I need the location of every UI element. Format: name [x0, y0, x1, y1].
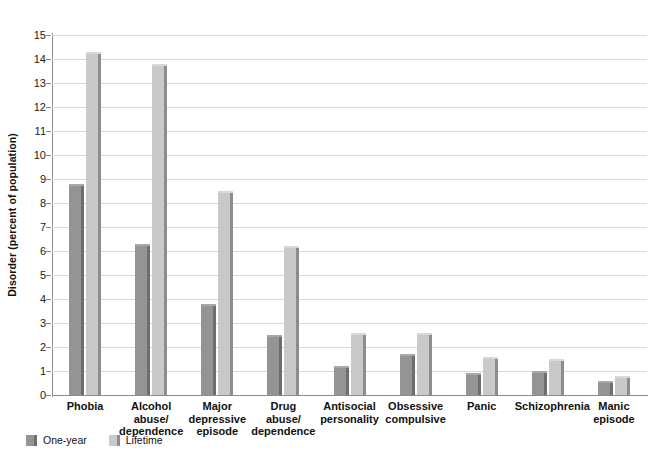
bar-one-year	[135, 244, 150, 395]
bar-side-shadow	[346, 366, 349, 395]
bar-top-cap	[417, 333, 432, 335]
y-axis-tick-label: 10	[24, 150, 46, 161]
bar-lifetime	[615, 376, 630, 395]
x-axis-label: Drugabuse/dependence	[250, 400, 316, 438]
bar-lifetime	[284, 246, 299, 395]
y-axis-tick-mark	[46, 131, 51, 132]
x-axis-label-line: episode	[581, 413, 647, 426]
bar-top-cap	[267, 335, 282, 337]
bar-top-cap	[466, 373, 481, 375]
bar-lifetime	[86, 52, 101, 395]
bar-group	[201, 35, 233, 395]
bar-group	[69, 35, 101, 395]
x-axis-label-line: Obsessive	[383, 400, 449, 413]
y-axis-tick-label: 12	[24, 102, 46, 113]
bar-group	[267, 35, 299, 395]
bar-face	[334, 366, 346, 395]
bar-lifetime	[483, 357, 498, 395]
y-axis-tick-label: 9	[24, 174, 46, 185]
bar-top-cap	[201, 304, 216, 306]
bar-side-shadow	[147, 244, 150, 395]
bar-top-cap	[69, 184, 84, 186]
bar-side-shadow	[279, 335, 282, 395]
bar-top-cap	[135, 244, 150, 246]
bar-top-cap	[483, 357, 498, 359]
bar-top-cap	[532, 371, 547, 373]
bar-top-cap	[152, 64, 167, 66]
y-axis-tick-label: 14	[24, 54, 46, 65]
bar-one-year	[400, 354, 415, 395]
bar-side-shadow	[363, 333, 366, 395]
x-axis-line	[52, 395, 648, 396]
bar-one-year	[267, 335, 282, 395]
bar-top-cap	[615, 376, 630, 378]
bar-lifetime	[152, 64, 167, 395]
bar-lifetime	[218, 191, 233, 395]
y-axis-tick-label: 4	[24, 294, 46, 305]
x-axis-label: Antisocialpersonality	[316, 400, 382, 425]
bar-top-cap	[284, 246, 299, 248]
x-axis-label: Majordepressiveepisode	[184, 400, 250, 438]
x-axis-label-line: abuse/	[118, 413, 184, 426]
bar-top-cap	[86, 52, 101, 54]
y-axis-tick-label: 15	[24, 30, 46, 41]
bar-face	[400, 354, 412, 395]
y-axis-tick-label: 3	[24, 318, 46, 329]
bar-group	[466, 35, 498, 395]
y-axis-tick-mark	[46, 227, 51, 228]
x-axis-label: Manicepisode	[581, 400, 647, 425]
bar-face	[86, 52, 98, 395]
y-axis-tick-mark	[46, 107, 51, 108]
x-axis-label-line: depressive	[184, 413, 250, 426]
bar-face	[218, 191, 230, 395]
bar-top-cap	[598, 381, 613, 383]
bar-side-shadow	[164, 64, 167, 395]
x-axis-label: Phobia	[52, 400, 118, 413]
x-axis-label-line: dependence	[250, 425, 316, 438]
bar-face	[201, 304, 213, 395]
bar-face	[615, 376, 627, 395]
top-cropped-residual	[0, 0, 659, 14]
x-axis-label-line: Antisocial	[316, 400, 382, 413]
bar-group	[135, 35, 167, 395]
legend-item[interactable]: Lifetime	[109, 434, 163, 446]
bar-side-shadow	[412, 354, 415, 395]
plot-area	[52, 35, 647, 395]
bar-top-cap	[400, 354, 415, 356]
bar-side-shadow	[561, 359, 564, 395]
bar-face	[284, 246, 296, 395]
bar-face	[549, 359, 561, 395]
bar-one-year	[532, 371, 547, 395]
legend-swatch-icon	[26, 435, 37, 446]
bar-side-shadow	[81, 184, 84, 395]
bar-side-shadow	[627, 376, 630, 395]
bar-side-shadow	[544, 371, 547, 395]
y-axis-tick-mark	[46, 155, 51, 156]
bar-face	[152, 64, 164, 395]
bar-face	[532, 371, 544, 395]
bar-side-shadow	[478, 373, 481, 395]
bar-face	[598, 381, 610, 395]
bar-group	[598, 35, 630, 395]
y-axis-tick-mark	[46, 251, 51, 252]
legend-item[interactable]: One-year	[26, 434, 87, 446]
y-axis-tick-label: 13	[24, 78, 46, 89]
bar-face	[417, 333, 429, 395]
y-axis-tick-mark	[46, 347, 51, 348]
bar-lifetime	[351, 333, 366, 395]
bar-side-shadow	[98, 52, 101, 395]
legend-label: Lifetime	[126, 434, 163, 446]
bar-lifetime	[417, 333, 432, 395]
bar-group	[334, 35, 366, 395]
y-axis-tick-mark	[46, 299, 51, 300]
bar-group	[400, 35, 432, 395]
bar-one-year	[466, 373, 481, 395]
y-axis-tick-mark	[46, 179, 51, 180]
bar-one-year	[598, 381, 613, 395]
bar-one-year	[69, 184, 84, 395]
y-axis-tick-label: 5	[24, 270, 46, 281]
bar-side-shadow	[495, 357, 498, 395]
x-axis-label-line: Schizophrenia	[515, 400, 581, 413]
x-axis-label-line: episode	[184, 425, 250, 438]
y-axis-tick-mark	[46, 371, 51, 372]
